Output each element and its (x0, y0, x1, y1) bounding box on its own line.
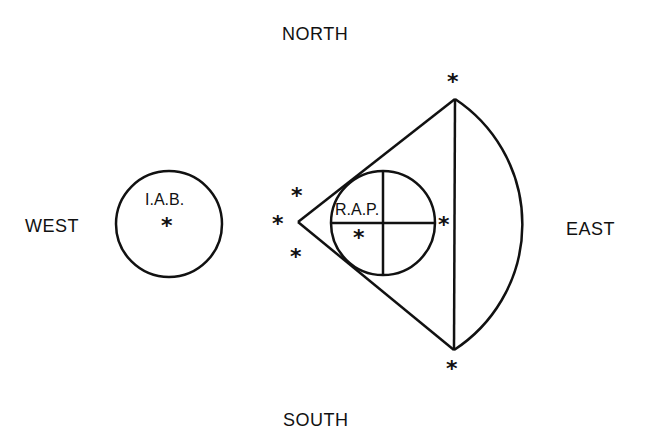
top-vertex-marker-icon: * (447, 71, 459, 93)
chord-mid-marker-icon: * (438, 214, 450, 236)
iab-marker-icon: * (161, 215, 173, 237)
apex-left-marker-icon: * (272, 213, 284, 235)
sector-arc (454, 99, 522, 350)
north-label: NORTH (282, 24, 348, 45)
sector-chord (454, 99, 455, 350)
west-label: WEST (25, 216, 79, 237)
iab-label: I.A.B. (145, 191, 184, 209)
apex-upper-marker-icon: * (291, 185, 303, 207)
apex-lower-marker-icon: * (290, 246, 302, 268)
rap-label: R.A.P. (335, 201, 379, 219)
diagram-shapes (0, 0, 645, 439)
rap-marker-icon: * (353, 227, 365, 249)
south-label: SOUTH (283, 410, 349, 431)
east-label: EAST (566, 219, 615, 240)
bottom-vertex-marker-icon: * (446, 358, 458, 380)
diagram-canvas: NORTH SOUTH WEST EAST I.A.B. * R.A.P. * … (0, 0, 645, 439)
